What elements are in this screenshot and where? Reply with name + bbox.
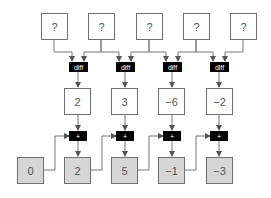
cumulative-value: 0	[27, 165, 33, 177]
cumulative-box: −3	[206, 157, 233, 184]
cumulative-value: 2	[74, 165, 80, 177]
input-box: ?	[230, 13, 257, 40]
difference-value: 3	[121, 96, 127, 108]
difference-value: −2	[213, 96, 226, 108]
input-value: ?	[98, 21, 104, 33]
diff-label: diff	[121, 64, 130, 71]
plus-label: +	[217, 133, 221, 140]
diff-operator: diff	[116, 62, 135, 72]
input-value: ?	[146, 21, 152, 33]
cumulative-value: −3	[213, 165, 226, 177]
cumulative-box: −1	[158, 157, 185, 184]
input-value: ?	[51, 21, 57, 33]
input-value: ?	[240, 21, 246, 33]
input-box: ?	[88, 13, 115, 40]
cumulative-value: 5	[121, 165, 127, 177]
cumulative-box: 5	[111, 157, 138, 184]
plus-operator: +	[163, 131, 181, 141]
difference-box: 2	[64, 88, 91, 115]
difference-box: −2	[206, 88, 233, 115]
plus-label: +	[123, 133, 127, 140]
diff-operator: diff	[69, 62, 88, 72]
input-box: ?	[41, 13, 68, 40]
input-box: ?	[183, 13, 210, 40]
diff-label: diff	[215, 64, 224, 71]
plus-label: +	[170, 133, 174, 140]
plus-operator: +	[69, 131, 87, 141]
plus-operator: +	[210, 131, 228, 141]
cumulative-box: 2	[64, 157, 91, 184]
difference-box: −6	[158, 88, 185, 115]
diff-operator: diff	[210, 62, 229, 72]
cumulative-value: −1	[165, 165, 178, 177]
input-value: ?	[193, 21, 199, 33]
cumulative-box: 0	[17, 157, 44, 184]
difference-value: 2	[74, 96, 80, 108]
plus-operator: +	[116, 131, 134, 141]
diff-label: diff	[168, 64, 177, 71]
difference-value: −6	[165, 96, 178, 108]
diff-label: diff	[74, 64, 83, 71]
plus-label: +	[76, 133, 80, 140]
diff-operator: diff	[163, 62, 182, 72]
input-box: ?	[136, 13, 163, 40]
difference-box: 3	[111, 88, 138, 115]
